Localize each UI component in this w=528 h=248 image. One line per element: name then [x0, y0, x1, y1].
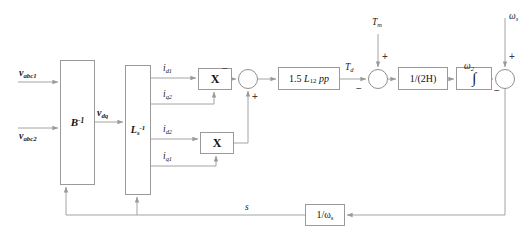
torque-gain-L-subscript: 12: [310, 77, 317, 84]
wire-slip-down: [347, 89, 505, 215]
label-omega-s: ωs: [509, 12, 518, 22]
label-slip-s: s: [245, 203, 249, 213]
wire-mul2-out: [234, 91, 248, 143]
block-ls-inverse-exponent: -1: [140, 124, 146, 131]
inertia-label: 1/(2H): [410, 74, 437, 84]
torque-gain-pp: pp: [319, 73, 329, 84]
label-v-abc2: vabc2: [19, 131, 37, 141]
block-inverse-omega-s: 1/ωs: [305, 204, 345, 226]
sign-plus-tm: +: [382, 52, 388, 62]
block-diagram-canvas: B-1 Ls-1 X X 1.5 L12 pp 1/(2H) ∫ 1/ωs − …: [0, 0, 528, 248]
label-t-d: Td: [345, 63, 354, 73]
label-v-abc1: vabc1: [19, 68, 37, 78]
multiplier-2-symbol: X: [213, 137, 222, 149]
label-v-dq: vdq: [97, 108, 108, 118]
sign-minus-slip: −: [494, 86, 500, 96]
torque-gain-L: L: [304, 73, 310, 84]
block-torque-gain: 1.5 L12 pp: [278, 67, 340, 90]
inverse-omega-s-omega: ω: [324, 209, 331, 220]
label-i-d2: id2: [163, 125, 172, 135]
sign-plus-torque-diff: +: [252, 92, 258, 102]
wire-iq2: [151, 92, 214, 104]
summing-junction-tm: [368, 69, 388, 89]
sign-minus-tm: −: [356, 84, 362, 94]
block-ls-inverse-base: L: [131, 124, 137, 135]
sign-minus-torque-diff: −: [222, 64, 228, 74]
torque-gain-prefix: 1.5: [289, 73, 304, 84]
block-integrator: ∫: [456, 67, 492, 90]
wire-fb-to-binv: [66, 187, 305, 215]
label-t-m: Tm: [372, 18, 382, 28]
block-ls-inverse: Ls-1: [125, 65, 151, 195]
label-i-q2: iq2: [163, 90, 172, 100]
block-b-inverse-base: B: [71, 116, 78, 128]
sign-plus-slip: +: [509, 52, 515, 62]
label-i-q1: iq1: [163, 152, 172, 162]
block-b-inverse: B-1: [60, 60, 95, 185]
block-b-inverse-exponent: -1: [78, 116, 84, 125]
multiplier-1-symbol: X: [211, 73, 220, 85]
block-inertia: 1/(2H): [398, 67, 448, 90]
label-omega-2: ω2: [464, 62, 474, 72]
integrator-symbol: ∫: [472, 71, 476, 86]
inverse-omega-s-subscript: s: [331, 214, 334, 221]
summing-junction-torque-diff: [238, 69, 258, 89]
block-multiplier-2: X: [200, 132, 234, 154]
label-i-d1: id1: [163, 64, 172, 74]
wire-iq1: [151, 156, 216, 166]
